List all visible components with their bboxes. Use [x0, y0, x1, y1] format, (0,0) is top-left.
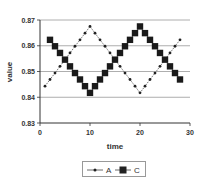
- data-point: [147, 37, 153, 43]
- data-point: [169, 52, 172, 55]
- series-layer: [44, 23, 184, 96]
- y-tick-label: 0.84: [21, 94, 35, 101]
- data-point: [177, 76, 183, 82]
- data-point: [104, 45, 107, 48]
- data-point: [99, 38, 102, 41]
- data-point: [47, 37, 53, 43]
- data-point: [79, 38, 82, 41]
- data-point: [102, 70, 108, 76]
- data-point: [167, 63, 173, 69]
- data-point: [154, 72, 157, 75]
- x-axis-label: time: [107, 142, 124, 151]
- data-point: [157, 50, 163, 56]
- x-tick-label: 20: [136, 129, 144, 136]
- legend-c-label: C: [134, 166, 140, 175]
- data-point: [69, 52, 72, 55]
- legend-a-label: A: [106, 166, 112, 175]
- data-point: [57, 50, 63, 56]
- data-point: [72, 70, 78, 76]
- data-point: [107, 63, 113, 69]
- legend-graphic: A C: [83, 162, 147, 178]
- line-chart: 0.830.840.850.860.870102030 time value: [0, 0, 203, 185]
- data-point: [109, 52, 112, 55]
- data-point: [139, 91, 142, 94]
- data-point: [134, 85, 137, 88]
- data-point: [117, 50, 123, 56]
- legend-a-marker-icon: [94, 169, 97, 172]
- data-point: [149, 78, 152, 81]
- data-point: [124, 72, 127, 75]
- data-point: [82, 83, 88, 89]
- data-point: [49, 78, 52, 81]
- data-point: [54, 72, 57, 75]
- legend: A C: [82, 161, 146, 177]
- data-point: [94, 32, 97, 35]
- x-tick-label: 30: [186, 129, 194, 136]
- data-point: [144, 85, 147, 88]
- y-tick-label: 0.85: [21, 68, 35, 75]
- data-point: [89, 25, 92, 28]
- data-point: [59, 65, 62, 68]
- data-point: [112, 56, 118, 62]
- data-point: [119, 65, 122, 68]
- data-point: [122, 43, 128, 49]
- data-point: [77, 76, 83, 82]
- data-point: [92, 83, 98, 89]
- data-point: [174, 45, 177, 48]
- data-point: [97, 76, 103, 82]
- data-point: [172, 70, 178, 76]
- data-point: [162, 56, 168, 62]
- legend-c-marker-icon: [120, 167, 127, 174]
- data-point: [137, 23, 143, 29]
- y-axis-label: value: [5, 61, 14, 82]
- data-point: [142, 30, 148, 36]
- data-point: [44, 85, 47, 88]
- data-point: [62, 56, 68, 62]
- y-tick-label: 0.83: [21, 120, 35, 127]
- data-point: [127, 37, 133, 43]
- y-tick-label: 0.86: [21, 42, 35, 49]
- data-point: [87, 90, 93, 96]
- axes: 0.830.840.850.860.870102030: [21, 17, 194, 137]
- data-point: [52, 43, 58, 49]
- data-point: [159, 65, 162, 68]
- x-tick-label: 0: [38, 129, 42, 136]
- data-point: [132, 30, 138, 36]
- data-point: [152, 43, 158, 49]
- x-tick-label: 10: [86, 129, 94, 136]
- data-point: [67, 63, 73, 69]
- data-point: [129, 78, 132, 81]
- data-point: [179, 38, 182, 41]
- data-point: [74, 45, 77, 48]
- y-tick-label: 0.87: [21, 17, 35, 24]
- data-point: [84, 32, 87, 35]
